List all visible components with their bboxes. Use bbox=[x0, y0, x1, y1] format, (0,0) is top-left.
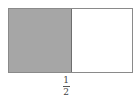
shaded-half bbox=[9, 9, 72, 72]
fraction-numerator: 1 bbox=[63, 76, 69, 85]
fraction-denominator: 2 bbox=[63, 88, 69, 97]
whole-rectangle bbox=[8, 8, 133, 73]
unshaded-half bbox=[72, 9, 132, 72]
fraction-diagram: 1 2 bbox=[0, 0, 140, 108]
fraction-label: 1 2 bbox=[56, 76, 76, 97]
